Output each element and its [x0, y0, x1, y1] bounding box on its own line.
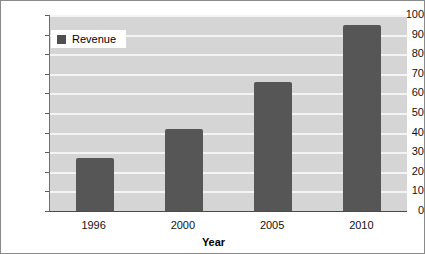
legend-label: Revenue — [72, 33, 116, 45]
x-axis-title: Year — [1, 236, 425, 248]
chart-legend: Revenue — [51, 30, 126, 48]
x-tick-label: 2010 — [331, 219, 391, 231]
x-tick-label: 1996 — [64, 219, 124, 231]
legend-swatch-icon — [57, 35, 66, 44]
gridline — [50, 15, 407, 17]
bar — [254, 82, 292, 211]
bar-chart: 0102030405060708090100 1996200020052010 … — [0, 0, 425, 254]
x-tick-label: 2005 — [242, 219, 302, 231]
bar — [76, 158, 114, 211]
bar — [343, 25, 381, 211]
x-tick-label: 2000 — [153, 219, 213, 231]
bar — [165, 129, 203, 211]
